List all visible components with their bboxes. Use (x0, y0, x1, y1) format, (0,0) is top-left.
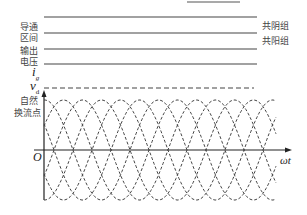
output-voltage-label-1: 输出 (20, 46, 38, 56)
common-anode-label: 共阳组 (262, 36, 289, 46)
natural-commutation-label-2: 换流点 (14, 108, 41, 118)
y-axis-arrow-icon (42, 90, 47, 97)
x-axis-label: ωt (280, 155, 291, 165)
vd-label: vd (30, 81, 39, 97)
x-axis-arrow-icon (285, 148, 292, 153)
origin-label: O (33, 152, 42, 162)
natural-commutation-label-1: 自然 (20, 96, 38, 106)
conduction-interval-label-1: 导通 (20, 22, 38, 32)
common-cathode-label: 共阴组 (262, 21, 289, 31)
conduction-interval-label-2: 区间 (20, 33, 38, 43)
waveform-diagram (0, 0, 307, 215)
vd-subscript: d (36, 88, 40, 96)
